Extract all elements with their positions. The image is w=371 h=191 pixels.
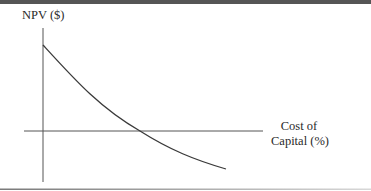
y-axis-label: NPV ($) <box>22 8 64 22</box>
top-frame-rule <box>0 0 371 4</box>
npv-curve <box>43 45 226 169</box>
x-axis-label-line2: Capital (%) <box>271 134 329 148</box>
npv-profile-chart: NPV ($) Cost of Capital (%) <box>0 0 371 191</box>
x-axis-label-line1: Cost of <box>281 119 318 133</box>
bottom-frame-rule <box>0 189 371 191</box>
